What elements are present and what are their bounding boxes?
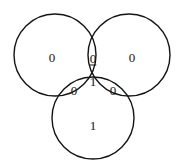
region-label-bottom-only: 1	[90, 119, 97, 132]
region-label-right-only: 0	[129, 51, 136, 64]
venn-diagram-figure: 0 0 0 1 0 0 1	[0, 0, 184, 167]
region-label-left-right-only: 0	[90, 52, 97, 65]
region-label-right-bottom-only: 0	[110, 84, 117, 97]
region-label-all-three: 1	[90, 75, 97, 88]
region-label-left-only: 0	[49, 51, 56, 64]
region-label-left-bottom-only: 0	[71, 84, 78, 97]
